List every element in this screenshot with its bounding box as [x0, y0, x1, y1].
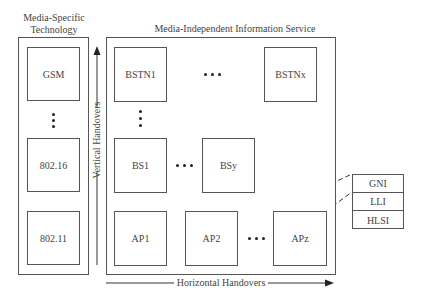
node-apz: APz — [273, 211, 327, 266]
ellipsis-dot — [52, 119, 55, 122]
ellipsis-dot — [211, 73, 214, 76]
ellipsis-dot — [139, 117, 142, 120]
node-gsm: GSM — [27, 47, 80, 101]
ellipsis-dot — [52, 113, 55, 116]
vertical-handovers-label: Vertical Handovers — [91, 102, 103, 179]
ellipsis-dot — [139, 110, 142, 113]
node-802-16: 802.16 — [27, 138, 80, 192]
ellipsis-dot — [139, 124, 142, 127]
left-panel-title: Media-Specific Technology — [14, 12, 94, 36]
table-row-lli: LLI — [353, 193, 403, 211]
ellipsis-dot — [176, 164, 179, 167]
table-row-hlsi: HLSI — [353, 211, 403, 229]
node-802-11: 802.11 — [27, 211, 80, 265]
ellipsis-dot — [255, 237, 258, 240]
information-elements-table: GNI LLI HLSI — [352, 174, 404, 229]
ellipsis-dot — [204, 73, 207, 76]
ellipsis-dot — [183, 164, 186, 167]
ellipsis-dot — [262, 237, 265, 240]
main-panel-title: Media-Independent Information Service — [140, 23, 330, 35]
ellipsis-dot — [248, 237, 251, 240]
node-bsy: BSy — [202, 138, 255, 193]
ellipsis-dot — [190, 164, 193, 167]
left-panel-title-line1: Media-Specific — [14, 12, 94, 24]
ellipsis-dot — [218, 73, 221, 76]
node-bstn1: BSTN1 — [114, 47, 167, 102]
left-panel-title-line2: Technology — [14, 24, 94, 36]
node-bstnx: BSTNx — [264, 47, 317, 102]
node-ap2: AP2 — [185, 211, 238, 266]
ellipsis-dot — [52, 125, 55, 128]
node-ap1: AP1 — [114, 211, 167, 266]
table-row-gni: GNI — [353, 175, 403, 193]
horizontal-handovers-label: Horizontal Handovers — [174, 277, 268, 289]
node-bs1: BS1 — [114, 138, 167, 193]
